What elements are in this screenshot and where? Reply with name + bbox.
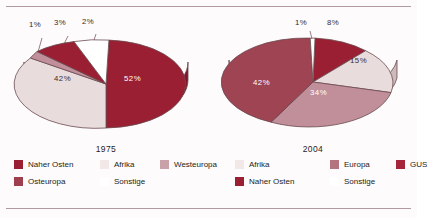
legend-label-afrika-1975: Afrika [114,160,134,169]
pie-2004-label-naher-osten: 42% [253,78,270,87]
legend-swatch-europa [330,160,339,169]
legend-label-sonstige-2004: Sonstige [344,177,375,186]
legend-label-osteuropa: Osteuropa [28,177,65,186]
legend-swatch-afrika-2004 [235,160,244,169]
bottom-divider-rule [6,208,411,209]
pie-1975-label-afrika: 42% [54,74,71,83]
pie-1975-leader-westeuropa [38,38,42,52]
legend-item-afrika-2004[interactable]: Afrika [235,156,294,173]
charts-area: 52% 42% 1% 3% 2% 1975 [0,12,417,154]
legend-label-gus: GUS [410,160,427,169]
legend-column-3: Westeuropa [160,156,217,173]
legend-item-westeuropa[interactable]: Westeuropa [160,156,217,173]
pie-2004-year-caption: 2004 [209,144,417,154]
pie-1975-label-naher-osten: 52% [124,74,141,83]
legend-label-afrika-2004: Afrika [249,160,269,169]
legend: Naher Osten Osteuropa Afrika Sonstige We… [0,156,417,204]
top-divider-rule [6,6,411,7]
pie-1975-year-caption: 1975 [2,144,210,154]
legend-column-2: Afrika Sonstige [100,156,145,190]
pie-1975-leader-sonstige [94,34,96,40]
legend-label-naher-osten-1975: Naher Osten [28,160,73,169]
legend-label-westeuropa: Westeuropa [174,160,217,169]
legend-swatch-gus [396,160,405,169]
legend-swatch-naher-osten-1975 [14,160,23,169]
legend-column-1: Naher Osten Osteuropa [14,156,73,190]
legend-column-5: Europa Sonstige [330,156,375,190]
legend-item-gus[interactable]: GUS [396,156,427,173]
legend-label-naher-osten-2004: Naher Osten [249,177,294,186]
pie-1975-graphic: 52% 42% 1% 3% 2% [2,12,210,136]
legend-swatch-afrika-1975 [100,160,109,169]
legend-label-sonstige-1975: Sonstige [114,177,145,186]
pie-2004-label-afrika: 15% [350,56,367,65]
legend-item-sonstige-1975[interactable]: Sonstige [100,173,145,190]
pie-2004-leader-sonstige [310,31,312,39]
legend-swatch-westeuropa [160,160,169,169]
pie-chart-1975: 52% 42% 1% 3% 2% 1975 [2,12,210,154]
pie-2004-graphic: 42% 15% 34% 8% 1% [209,12,417,136]
legend-item-europa[interactable]: Europa [330,156,375,173]
legend-item-naher-osten-1975[interactable]: Naher Osten [14,156,73,173]
legend-swatch-sonstige-2004 [330,177,339,186]
legend-column-6: GUS [396,156,427,173]
legend-item-naher-osten-2004[interactable]: Naher Osten [235,173,294,190]
legend-label-europa: Europa [344,160,370,169]
pie-chart-2004: 42% 15% 34% 8% 1% 2004 [209,12,417,154]
legend-item-osteuropa[interactable]: Osteuropa [14,173,73,190]
legend-item-sonstige-2004[interactable]: Sonstige [330,173,375,190]
legend-swatch-osteuropa [14,177,23,186]
pie-1975-label-westeuropa: 1% [29,20,41,29]
pie-2004-label-europa: 34% [310,88,327,97]
pie-1975-leader-osteuropa [64,36,68,44]
legend-swatch-sonstige-1975 [100,177,109,186]
pie-1975-label-osteuropa: 3% [54,18,66,27]
pie-1975-label-sonstige: 2% [82,17,94,26]
legend-item-afrika-1975[interactable]: Afrika [100,156,145,173]
pie-2004-label-sonstige: 1% [295,18,307,27]
legend-swatch-naher-osten-2004 [235,177,244,186]
pie-2004-label-gus: 8% [327,18,339,27]
legend-column-4: Afrika Naher Osten [235,156,294,190]
